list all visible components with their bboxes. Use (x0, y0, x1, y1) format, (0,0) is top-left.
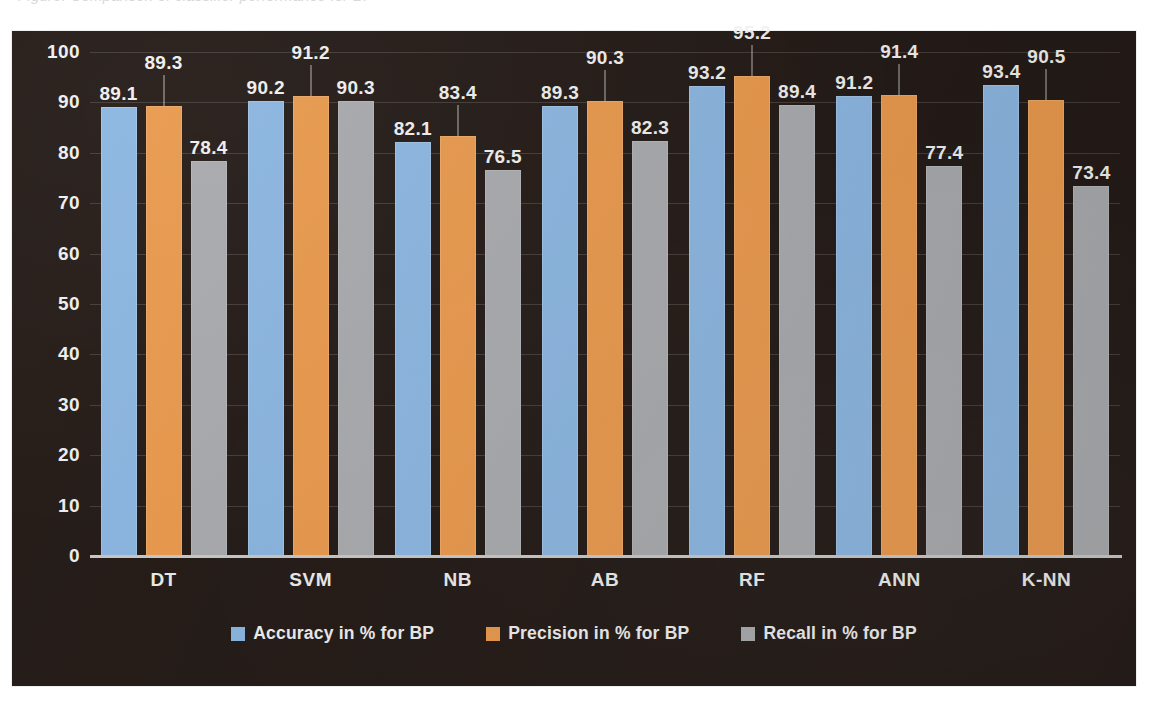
y-axis: 1009080706050403020100 (20, 52, 80, 556)
data-label: 91.4 (880, 41, 918, 63)
data-label: 90.3 (337, 77, 375, 99)
y-axis-tick-label: 60 (24, 243, 80, 265)
bar-k-nn-series0 (983, 85, 1019, 556)
data-label: 91.2 (835, 72, 873, 94)
data-label: 95.2 (733, 22, 771, 44)
bar-dt-series0 (101, 107, 137, 556)
y-axis-tick-label: 70 (24, 192, 80, 214)
data-label: 89.1 (99, 83, 137, 105)
data-label: 82.1 (394, 118, 432, 140)
legend-item-0[interactable]: Accuracy in % for BP (231, 623, 434, 644)
legend-swatch-icon (231, 627, 245, 641)
x-axis-label-nb: NB (444, 569, 472, 591)
bar-ann-series0 (836, 96, 872, 556)
data-label: 83.4 (439, 82, 477, 104)
legend-label: Precision in % for BP (508, 623, 689, 644)
x-axis-line (90, 555, 1122, 558)
figure-caption: Figure: Comparison of classifier perform… (18, 0, 373, 4)
data-label: 82.3 (631, 117, 669, 139)
bar-k-nn-series2 (1073, 186, 1109, 556)
y-axis-tick-label: 50 (24, 293, 80, 315)
legend-label: Accuracy in % for BP (253, 623, 434, 644)
bar-ab-series0 (542, 106, 578, 556)
data-label-leader-line (605, 70, 606, 101)
chart-legend: Accuracy in % for BPPrecision in % for B… (12, 623, 1136, 644)
legend-swatch-icon (741, 627, 755, 641)
plot-area: 89.189.378.490.291.290.382.183.476.589.3… (90, 52, 1120, 556)
x-axis-label-ann: ANN (878, 569, 921, 591)
y-axis-tick-label: 20 (24, 444, 80, 466)
data-label-leader-line (457, 105, 458, 136)
bar-group: 93.490.573.4 (983, 52, 1109, 556)
bar-group: 91.291.477.4 (836, 52, 962, 556)
x-axis-label-svm: SVM (289, 569, 332, 591)
data-label-leader-line (163, 75, 164, 106)
bar-svm-series0 (248, 101, 284, 556)
data-label: 93.2 (688, 62, 726, 84)
bar-dt-series1 (146, 106, 182, 556)
legend-item-1[interactable]: Precision in % for BP (486, 623, 689, 644)
legend-item-2[interactable]: Recall in % for BP (741, 623, 916, 644)
bar-k-nn-series1 (1028, 100, 1064, 556)
x-axis-label-ab: AB (591, 569, 619, 591)
data-label: 93.4 (982, 61, 1020, 83)
y-axis-tick-label: 30 (24, 394, 80, 416)
bar-ann-series2 (926, 166, 962, 556)
figure-caption-strip: Figure: Comparison of classifier perform… (0, 0, 1159, 26)
y-axis-tick-label: 40 (24, 343, 80, 365)
bar-group: 89.189.378.4 (101, 52, 227, 556)
bar-nb-series0 (395, 142, 431, 556)
x-axis-label-rf: RF (739, 569, 765, 591)
bar-rf-series2 (779, 105, 815, 556)
bar-ab-series2 (632, 141, 668, 556)
data-label: 76.5 (484, 146, 522, 168)
data-label: 78.4 (189, 137, 227, 159)
data-label-leader-line (899, 64, 900, 95)
bar-rf-series0 (689, 86, 725, 556)
y-axis-tick-label: 90 (24, 91, 80, 113)
bar-nb-series2 (485, 170, 521, 556)
data-label: 91.2 (292, 42, 330, 64)
y-axis-tick-label: 0 (24, 545, 80, 567)
y-axis-tick-label: 80 (24, 142, 80, 164)
data-label: 90.3 (586, 47, 624, 69)
data-label-leader-line (310, 65, 311, 96)
bar-ab-series1 (587, 101, 623, 556)
y-axis-tick-label: 10 (24, 495, 80, 517)
bar-svm-series1 (293, 96, 329, 556)
x-axis: DTSVMNBABRFANNK-NN (90, 561, 1120, 607)
legend-swatch-icon (486, 627, 500, 641)
data-label: 90.5 (1027, 46, 1065, 68)
y-axis-tick-label: 100 (24, 41, 80, 63)
data-label: 73.4 (1072, 162, 1110, 184)
x-axis-label-dt: DT (150, 569, 176, 591)
data-label: 89.3 (541, 82, 579, 104)
bar-rf-series1 (734, 76, 770, 556)
bar-dt-series2 (191, 161, 227, 556)
data-label-leader-line (1046, 69, 1047, 100)
chart-panel: 1009080706050403020100 89.189.378.490.29… (12, 31, 1136, 686)
data-label: 77.4 (925, 142, 963, 164)
bar-ann-series1 (881, 95, 917, 556)
data-label-leader-line (752, 45, 753, 76)
bar-group: 90.291.290.3 (248, 52, 374, 556)
data-label: 89.3 (144, 52, 182, 74)
data-label: 89.4 (778, 81, 816, 103)
legend-label: Recall in % for BP (763, 623, 916, 644)
data-label: 90.2 (247, 77, 285, 99)
bar-group: 82.183.476.5 (395, 52, 521, 556)
x-axis-label-k-nn: K-NN (1022, 569, 1072, 591)
bar-group: 89.390.382.3 (542, 52, 668, 556)
bar-group: 93.295.289.4 (689, 52, 815, 556)
bar-nb-series1 (440, 136, 476, 556)
bar-svm-series2 (338, 101, 374, 556)
